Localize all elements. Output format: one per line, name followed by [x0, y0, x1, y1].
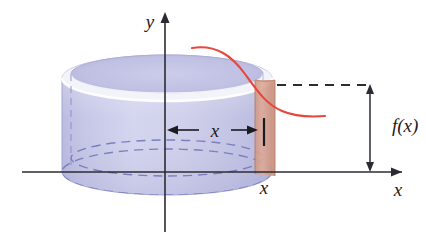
- height-arrowhead-top: [366, 84, 374, 94]
- x-axis-arrowhead: [391, 168, 402, 177]
- x-axis-label: x: [393, 179, 403, 200]
- shell-method-figure: y x x x f(x): [0, 0, 426, 245]
- figure-canvas: y x x x f(x): [0, 0, 426, 245]
- cylinder-solid: [62, 55, 272, 195]
- y-axis-label: y: [144, 11, 155, 32]
- y-axis-arrowhead: [161, 12, 170, 23]
- x-tick-label: x: [259, 177, 269, 198]
- height-dimension-arrow: [366, 84, 374, 172]
- function-height-label: f(x): [392, 115, 418, 137]
- height-arrowhead-bottom: [366, 162, 374, 172]
- radius-label: x: [210, 120, 220, 141]
